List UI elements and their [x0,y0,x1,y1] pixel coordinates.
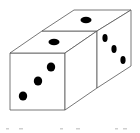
caption-strip [0,118,140,133]
pip-back-die-right-1 [102,34,107,42]
pip-front-die-top-1 [49,39,60,45]
pip-back-die-right-2 [111,45,116,53]
pip-front-die-front-1 [19,91,27,100]
pip-back-die-right-3 [120,56,125,64]
pip-back-die-top-1 [81,17,92,23]
dice-illustration [0,0,140,133]
pip-front-die-front-2 [34,76,42,85]
pip-front-die-front-3 [47,62,55,71]
dice-outline [10,10,131,110]
